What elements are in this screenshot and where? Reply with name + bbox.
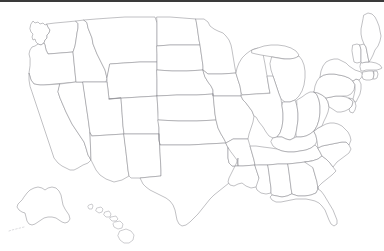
region-contiguous-united-states	[29, 13, 382, 226]
state-north-dakota[interactable]	[157, 17, 200, 46]
state-connecticut[interactable]	[362, 71, 374, 80]
region-hawaii-inset	[88, 204, 134, 243]
island-oahu[interactable]	[104, 211, 111, 217]
state-alaska[interactable]	[17, 187, 70, 225]
us-outline-map: United States Outline Map Blank politica…	[0, 0, 384, 251]
state-arizona[interactable]	[90, 133, 129, 182]
state-south-dakota[interactable]	[157, 45, 203, 71]
island-hawaii[interactable]	[118, 229, 134, 243]
state-massachusetts[interactable]	[360, 62, 382, 71]
region-alaska-inset	[9, 187, 70, 231]
state-new-jersey[interactable]	[353, 79, 361, 102]
map-canvas	[0, 0, 384, 251]
state-washington-upper[interactable]	[44, 21, 78, 54]
state-new-mexico[interactable]	[124, 134, 161, 178]
state-wyoming[interactable]	[107, 62, 157, 99]
aleutian-islands-chain	[9, 227, 24, 231]
state-vermont[interactable]	[352, 44, 361, 63]
island-niihau[interactable]	[88, 204, 93, 209]
island-molokai[interactable]	[110, 216, 118, 221]
island-maui[interactable]	[113, 221, 123, 229]
state-oklahoma[interactable]	[158, 120, 226, 145]
state-rhode-island[interactable]	[373, 71, 378, 79]
state-kansas[interactable]	[157, 94, 216, 121]
island-kauai[interactable]	[96, 207, 103, 213]
